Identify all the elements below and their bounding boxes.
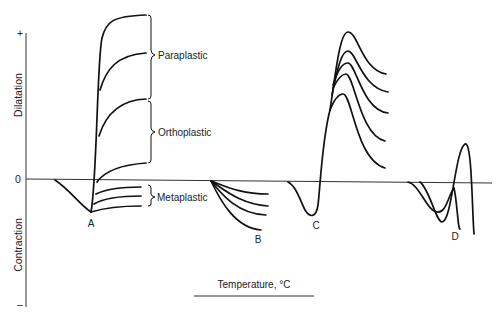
brace-paraplastic [148,15,155,99]
curve-a-6 [94,196,141,204]
brace-metaplastic [148,185,155,206]
dilatometer-diagram: + 0 – Dilatation Contraction Temperature… [0,0,500,317]
brace-orthoplastic [148,101,155,163]
label-metaplastic: Metaplastic [157,192,208,203]
y-tick-minus: – [17,298,23,310]
curve-c-2 [332,51,388,95]
label-a: A [88,218,95,229]
curve-a-1 [91,15,146,212]
curve-group-a [55,15,146,212]
curve-c-3 [333,63,388,113]
y-tick-zero: 0 [15,173,21,185]
curve-a-4 [97,163,146,182]
label-orthoplastic: Orthoplastic [158,127,211,138]
curve-a-5 [96,187,141,194]
curve-a-contraction [55,180,91,212]
x-axis-label: Temperature, °C [218,279,291,290]
curve-a-3 [99,99,146,136]
y-label-contraction: Contraction [12,218,24,272]
label-b: B [255,234,262,245]
curve-a-2 [100,53,146,90]
curve-c-5 [330,94,385,168]
curve-c-4 [333,74,385,141]
zero-line [26,179,492,183]
label-paraplastic: Paraplastic [158,50,207,61]
y-tick-plus: + [17,27,23,39]
curve-group-c [288,32,388,215]
curve-group-d [408,144,474,234]
label-d: D [451,231,458,242]
curve-a-7 [91,206,141,212]
y-label-dilatation: Dilatation [12,73,24,117]
curve-c-base [288,110,330,215]
curve-group-b [211,181,268,230]
curve-d-2 [420,144,474,234]
label-c: C [312,220,319,231]
